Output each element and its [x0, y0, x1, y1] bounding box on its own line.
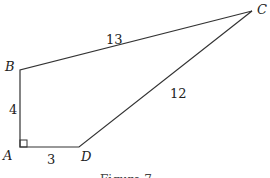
quadrilateral-abcd	[20, 11, 252, 147]
side-label-bc: 13	[106, 32, 123, 47]
quadrilateral-diagram: A B C D 4 3 13 12 Figure 7	[0, 0, 270, 178]
vertex-label-c: C	[257, 2, 267, 17]
vertex-label-b: B	[4, 59, 15, 74]
side-label-cd: 12	[170, 86, 187, 101]
side-label-ad: 3	[47, 152, 55, 167]
right-angle-marker	[20, 140, 27, 147]
vertex-label-d: D	[80, 149, 92, 164]
figure-caption: Figure 7	[100, 173, 152, 178]
vertex-label-a: A	[2, 148, 12, 163]
side-label-ab: 4	[9, 102, 17, 117]
